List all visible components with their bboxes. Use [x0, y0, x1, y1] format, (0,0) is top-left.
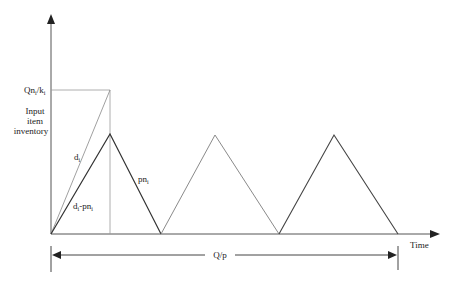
- cycle-3: [279, 135, 398, 234]
- cycle-2: [161, 135, 279, 234]
- net-rise-label: di-pni: [73, 201, 93, 212]
- cycle-1: [51, 134, 161, 234]
- rise-line-di: [51, 90, 110, 234]
- y-axis-label-line-2: item: [27, 116, 43, 126]
- y-axis-arrow-icon: [47, 14, 55, 24]
- y-axis-label-line-1: Input: [26, 106, 45, 116]
- x-axis-label: Time: [410, 240, 429, 250]
- inventory-diagram: Qni/ki Input item inventory di di-pni pn…: [0, 0, 454, 285]
- x-axis-arrow-icon: [430, 230, 440, 238]
- fall-label: pni: [138, 174, 149, 185]
- span-left-arrow-icon: [52, 251, 61, 259]
- rise-label: di: [74, 152, 81, 163]
- max-level-label: Qni/ki: [24, 85, 46, 96]
- span-right-arrow-icon: [388, 251, 397, 259]
- y-axis-label-line-3: inventory: [14, 126, 49, 136]
- span-label: Q/p: [213, 250, 227, 260]
